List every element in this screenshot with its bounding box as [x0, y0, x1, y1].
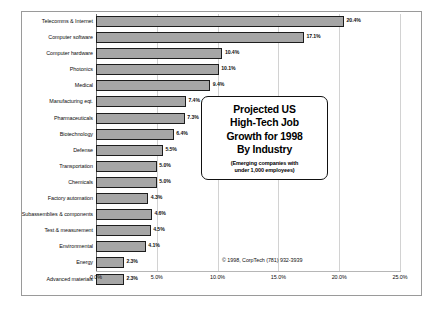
callout-subtitle-line-1: (Emerging companies with — [202, 160, 327, 168]
bar-row: 17.1% — [96, 30, 400, 46]
x-tick-label: 5.0% — [151, 274, 163, 280]
bar — [96, 48, 222, 59]
chart-title-callout: Projected US High-Tech Job Growth for 19… — [201, 96, 328, 180]
bar-value-label: 7.4% — [188, 95, 199, 106]
bar-value-label: 4.5% — [153, 224, 164, 235]
category-label-row: Medical — [0, 78, 93, 94]
category-label-row: Biotechnology — [0, 127, 93, 143]
bar — [96, 209, 152, 220]
bar — [96, 80, 210, 91]
x-tick-label: 10.0% — [210, 274, 225, 280]
category-label: Chemicals — [68, 176, 93, 188]
category-label-row: Factory automation — [0, 191, 93, 207]
x-tick-label: 20.0% — [332, 274, 347, 280]
category-label: Energy — [76, 256, 93, 268]
callout-title-line-3: Growth for 1998 — [202, 130, 327, 143]
bar-row: 4.1% — [96, 239, 400, 255]
category-label-row: Chemicals — [0, 175, 93, 191]
category-label: Medical — [75, 79, 93, 91]
copyright-notice: © 1998, CorpTech (781) 932-3939 — [222, 257, 302, 263]
bar-value-label: 5.0% — [159, 176, 170, 187]
category-label: Biotechnology — [60, 128, 93, 140]
bar — [96, 161, 157, 172]
bar-value-label: 4.3% — [151, 192, 162, 203]
category-label: Computer software — [48, 31, 93, 43]
bar — [96, 16, 344, 27]
callout-subtitle: (Emerging companies with under 1,000 emp… — [202, 160, 327, 175]
bar — [96, 177, 157, 188]
callout-title-line-4: By Industry — [202, 143, 327, 156]
bar — [96, 96, 186, 107]
bar — [96, 193, 148, 204]
category-label: Defense — [73, 144, 93, 156]
bar-row: 10.1% — [96, 62, 400, 78]
category-label-row: Pharmaceuticals — [0, 111, 93, 127]
bar — [96, 32, 304, 43]
bar-value-label: 10.1% — [221, 63, 235, 74]
bar — [96, 225, 151, 236]
bar — [96, 145, 163, 156]
x-tick-label: 25.0% — [392, 274, 407, 280]
category-label: Manufacturing eqt. — [49, 95, 93, 107]
category-axis-labels: Telecomms & InternetComputer softwareCom… — [0, 14, 93, 270]
bar-value-label: 5.5% — [165, 144, 176, 155]
bar-value-label: 5.0% — [159, 160, 170, 171]
bar-value-label: 4.6% — [154, 208, 165, 219]
bar-value-label: 9.4% — [213, 79, 224, 90]
bar — [96, 129, 174, 140]
category-label: Environmental — [59, 240, 93, 252]
category-label-row: Telecomms & Internet — [0, 14, 93, 30]
bar-row: 20.4% — [96, 14, 400, 30]
bar-value-label: 6.4% — [176, 128, 187, 139]
bar-row: 4.5% — [96, 223, 400, 239]
category-label-row: Transportation — [0, 159, 93, 175]
bar-row: 9.4% — [96, 78, 400, 94]
category-label-row: Environmental — [0, 239, 93, 255]
category-label: Photonics — [70, 63, 93, 75]
bar-value-label: 20.4% — [347, 15, 361, 26]
bar — [96, 241, 146, 252]
category-label-row: Energy — [0, 255, 93, 271]
category-label: Computer hardware — [46, 47, 93, 59]
category-label: Transportation — [59, 160, 93, 172]
category-label-row: Computer software — [0, 30, 93, 46]
category-label-row: Photonics — [0, 62, 93, 78]
category-label: Pharmaceuticals — [54, 112, 93, 124]
bar-value-label: 4.1% — [148, 240, 159, 251]
category-label: Factory automation — [48, 192, 93, 204]
category-label-row: Manufacturing eqt. — [0, 94, 93, 110]
bar-chart-figure: Telecomms & InternetComputer softwareCom… — [0, 0, 443, 315]
callout-title-line-2: High-Tech Job — [202, 116, 327, 129]
category-label: Telecomms & Internet — [42, 15, 93, 27]
bar — [96, 257, 124, 268]
bar-value-label: 2.3% — [126, 256, 137, 267]
category-label: Test & measurement — [44, 224, 93, 236]
category-label-row: Computer hardware — [0, 46, 93, 62]
bar-row: 4.3% — [96, 191, 400, 207]
bar-value-label: 10.4% — [225, 47, 239, 58]
callout-title-line-1: Projected US — [202, 103, 327, 116]
category-label-row: Test & measurement — [0, 223, 93, 239]
x-tick-label: 15.0% — [271, 274, 286, 280]
bar — [96, 113, 185, 124]
category-label-row: Defense — [0, 143, 93, 159]
category-label: Subassemblies & components — [22, 208, 93, 220]
category-label-row: Subassemblies & components — [0, 207, 93, 223]
bar-row: 4.6% — [96, 207, 400, 223]
bar-row: 10.4% — [96, 46, 400, 62]
bar-value-label: 7.3% — [187, 112, 198, 123]
gridline — [400, 14, 401, 271]
bar-value-label: 17.1% — [306, 31, 320, 42]
callout-subtitle-line-2: under 1,000 employees) — [202, 167, 327, 175]
x-tick-label: 0.0% — [90, 274, 102, 280]
x-axis-tick-labels: 0.0%5.0%10.0%15.0%20.0%25.0% — [0, 274, 401, 288]
bar — [96, 64, 219, 75]
